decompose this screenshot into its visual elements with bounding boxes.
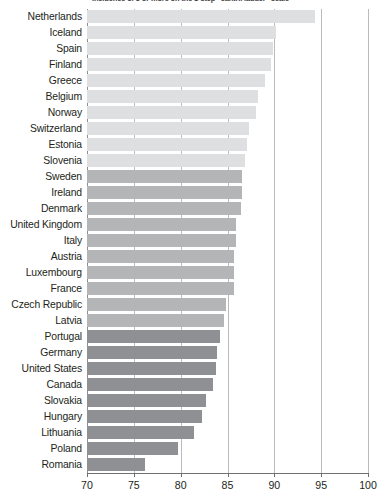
- bar-chart: Incidence of 5 or more on the 1-step "ca…: [0, 0, 381, 495]
- x-axis-tick: [274, 473, 275, 477]
- bar: [87, 186, 242, 199]
- bar-category-label: Netherlands: [0, 9, 82, 25]
- bar-row: Portugal: [0, 329, 381, 345]
- bar-category-label: Greece: [0, 73, 82, 89]
- bar-row: France: [0, 281, 381, 297]
- bar-category-label: United States: [0, 361, 82, 377]
- bar-category-label: France: [0, 281, 82, 297]
- bar-row: Denmark: [0, 201, 381, 217]
- bar-category-label: United Kingdom: [0, 217, 82, 233]
- x-axis-tick-label: 85: [208, 479, 248, 491]
- x-axis-tick-label: 80: [161, 479, 201, 491]
- bar-row: Canada: [0, 377, 381, 393]
- bar-category-label: Canada: [0, 377, 82, 393]
- bar: [87, 410, 202, 423]
- bar-category-label: Slovenia: [0, 153, 82, 169]
- x-axis-tick-label: 90: [254, 479, 294, 491]
- bar: [87, 42, 273, 55]
- bar: [87, 314, 224, 327]
- x-axis-tick-label: 100: [348, 479, 381, 491]
- bar-category-label: Germany: [0, 345, 82, 361]
- bar-row: Estonia: [0, 137, 381, 153]
- bar-row: Slovakia: [0, 393, 381, 409]
- bar-category-label: Austria: [0, 249, 82, 265]
- bar-row: United Kingdom: [0, 217, 381, 233]
- bar: [87, 170, 242, 183]
- bar: [87, 282, 234, 295]
- x-axis-tick-label: 70: [67, 479, 107, 491]
- bar-row: Poland: [0, 441, 381, 457]
- bar: [87, 298, 226, 311]
- bar-row: Romania: [0, 457, 381, 473]
- bar: [87, 362, 216, 375]
- bar-row: United States: [0, 361, 381, 377]
- bar-category-label: Switzerland: [0, 121, 82, 137]
- bar: [87, 250, 234, 263]
- bar: [87, 58, 271, 71]
- bar-category-label: Hungary: [0, 409, 82, 425]
- bar-row: Ireland: [0, 185, 381, 201]
- chart-title: Incidence of 5 or more on the 1-step "ca…: [0, 0, 381, 3]
- bar: [87, 154, 245, 167]
- bar-row: Greece: [0, 73, 381, 89]
- bar-category-label: Portugal: [0, 329, 82, 345]
- bar-row: Sweden: [0, 169, 381, 185]
- bar: [87, 106, 256, 119]
- bar-category-label: Latvia: [0, 313, 82, 329]
- bar: [87, 330, 220, 343]
- bar-row: Slovenia: [0, 153, 381, 169]
- bar-category-label: Czech Republic: [0, 297, 82, 313]
- bar-row: Luxembourg: [0, 265, 381, 281]
- bar-category-label: Iceland: [0, 25, 82, 41]
- bar-row: Switzerland: [0, 121, 381, 137]
- bar-row: Hungary: [0, 409, 381, 425]
- bar-row: Latvia: [0, 313, 381, 329]
- bar: [87, 442, 178, 455]
- x-axis-tick-label: 75: [114, 479, 154, 491]
- bar: [87, 218, 236, 231]
- bar: [87, 234, 236, 247]
- x-axis-tick-label: 95: [301, 479, 341, 491]
- x-axis-tick: [368, 473, 369, 477]
- bar-category-label: Belgium: [0, 89, 82, 105]
- bar-row: Lithuania: [0, 425, 381, 441]
- bar-row: Belgium: [0, 89, 381, 105]
- x-axis-tick: [228, 473, 229, 477]
- bar-row: Austria: [0, 249, 381, 265]
- bar: [87, 394, 206, 407]
- bar-category-label: Romania: [0, 457, 82, 473]
- bar-category-label: Luxembourg: [0, 265, 82, 281]
- x-axis-tick: [321, 473, 322, 477]
- bar-category-label: Sweden: [0, 169, 82, 185]
- bar-category-label: Italy: [0, 233, 82, 249]
- bar-row: Finland: [0, 57, 381, 73]
- bar-row: Netherlands: [0, 9, 381, 25]
- bar-category-label: Spain: [0, 41, 82, 57]
- bar: [87, 426, 194, 439]
- bar: [87, 138, 247, 151]
- bar: [87, 90, 258, 103]
- x-axis-tick: [87, 473, 88, 477]
- bar-category-label: Slovakia: [0, 393, 82, 409]
- bar-category-label: Norway: [0, 105, 82, 121]
- bar: [87, 458, 145, 471]
- bar: [87, 378, 213, 391]
- x-axis-tick: [181, 473, 182, 477]
- bar: [87, 74, 265, 87]
- bar-row: Spain: [0, 41, 381, 57]
- bar-row: Norway: [0, 105, 381, 121]
- bar-row: Germany: [0, 345, 381, 361]
- bar: [87, 26, 276, 39]
- bar-category-label: Denmark: [0, 201, 82, 217]
- bar: [87, 10, 315, 23]
- bar-category-label: Finland: [0, 57, 82, 73]
- bar-category-label: Estonia: [0, 137, 82, 153]
- bar-row: Italy: [0, 233, 381, 249]
- bar: [87, 346, 217, 359]
- bar-row: Iceland: [0, 25, 381, 41]
- bar-row: Czech Republic: [0, 297, 381, 313]
- bar: [87, 202, 241, 215]
- bar-category-label: Lithuania: [0, 425, 82, 441]
- bar: [87, 266, 234, 279]
- x-axis-tick: [134, 473, 135, 477]
